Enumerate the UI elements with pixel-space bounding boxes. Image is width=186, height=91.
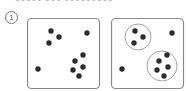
data-point-dot [164, 52, 169, 57]
data-point-dot [46, 40, 51, 45]
cluster-circle [125, 24, 151, 50]
data-point-dot [35, 66, 40, 71]
data-point-dot [169, 30, 174, 35]
data-point-dot [165, 64, 170, 69]
data-point-dot [80, 52, 85, 57]
panel-unclustered [28, 19, 100, 89]
data-point-dot [72, 58, 77, 63]
data-point-dot [154, 67, 159, 72]
data-point-dot [70, 67, 75, 72]
data-point-dot [84, 30, 89, 35]
data-point-dot [48, 28, 53, 33]
data-point-dot [140, 34, 145, 39]
data-point-dot [132, 28, 137, 33]
data-point-dot [161, 73, 166, 78]
data-point-dot [80, 64, 85, 69]
data-point-dot [56, 34, 61, 39]
data-point-dot [156, 58, 161, 63]
data-point-dot [76, 73, 81, 78]
data-point-dot [131, 40, 136, 45]
panel-clustered [112, 19, 184, 89]
data-point-dot [119, 66, 124, 71]
panel-frame [112, 19, 184, 89]
clustering-diagram [0, 0, 186, 91]
panel-frame [28, 19, 100, 89]
